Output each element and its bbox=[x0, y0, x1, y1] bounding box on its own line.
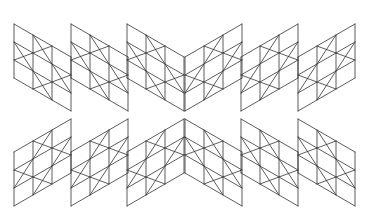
right-lower-panel-0-grid-slant bbox=[298, 155, 355, 188]
right-lower-panel-1-cell-diagonal bbox=[279, 159, 298, 188]
right-lower-panel-0-cell-diagonal bbox=[317, 130, 336, 159]
right-lower-panel-0-grid-slant bbox=[298, 173, 355, 206]
left-upper-panel-2-grid-slant bbox=[127, 60, 184, 93]
right-lower-panel-0-grid-slant bbox=[298, 119, 355, 152]
right-lower-panel-2-grid-slant bbox=[185, 119, 242, 152]
left-lower-panel-0-cell-diagonal bbox=[33, 130, 52, 159]
right-lower-panel-2-cell-diagonal bbox=[185, 137, 204, 166]
left-lower-panel-1-grid-slant bbox=[71, 119, 128, 152]
left-lower-panel-0-grid-slant bbox=[14, 155, 71, 188]
right-upper-panel-0-cell-diagonal bbox=[298, 75, 317, 82]
right-upper-panel-0-cell-diagonal bbox=[336, 53, 355, 60]
right-upper-panel-0-grid-slant bbox=[298, 42, 355, 75]
right-lower-panel-2-cell-diagonal bbox=[204, 166, 223, 195]
right-upper-panel-0-grid-slant bbox=[298, 78, 355, 111]
right-upper-panel-1-grid-slant bbox=[241, 78, 298, 111]
left-upper-panel-2-cell-diagonal bbox=[127, 53, 146, 60]
right-upper-panel-0-cell-diagonal bbox=[317, 82, 336, 89]
right-upper-panel-0-grid-slant bbox=[298, 24, 355, 57]
left-lower-panel-0-cell-diagonal bbox=[52, 137, 71, 166]
right-lower-panel-0-cell-diagonal bbox=[298, 137, 317, 166]
left-lower-panel-1-grid-slant bbox=[71, 155, 128, 188]
right-lower-panel-1-cell-diagonal bbox=[260, 166, 279, 195]
right-upper-panel-1-grid-slant bbox=[241, 42, 298, 75]
right-lower-panel-0-cell-diagonal bbox=[317, 166, 336, 195]
left-lower-panel-2-cell-diagonal bbox=[127, 159, 146, 188]
right-upper-panel-1-cell-diagonal bbox=[241, 75, 260, 82]
right-upper-panel-2-grid-slant bbox=[185, 60, 242, 93]
left-upper-panel-1-cell-diagonal bbox=[109, 75, 128, 82]
right-upper-panel-1-cell-diagonal bbox=[260, 82, 279, 89]
left-upper-panel-0-grid-slant bbox=[14, 42, 71, 75]
right-upper-panel-2-cell-diagonal bbox=[185, 75, 204, 82]
left-lower-panel-2-grid-slant bbox=[127, 137, 184, 170]
left-upper-panel-1-grid-slant bbox=[71, 42, 128, 75]
left-lower-panel-1-grid-slant bbox=[71, 137, 128, 170]
left-upper-panel-2-cell-diagonal bbox=[146, 82, 165, 89]
left-lower-panel-1-cell-diagonal bbox=[71, 159, 90, 188]
left-lower-panel-0-grid-slant bbox=[14, 119, 71, 152]
right-lower-panel-2-grid-slant bbox=[185, 155, 242, 188]
chevron-tessellation-figure bbox=[0, 0, 365, 219]
left-upper-panel-2-grid-slant bbox=[127, 78, 184, 111]
left-lower-panel-1-grid-slant bbox=[71, 173, 128, 206]
left-lower-panel-2-cell-diagonal bbox=[146, 130, 165, 159]
left-upper-panel-0-grid-slant bbox=[14, 24, 71, 57]
left-upper-panel-0-cell-diagonal bbox=[14, 53, 33, 60]
right-upper-panel-1-cell-diagonal bbox=[260, 46, 279, 53]
right-lower-panel-1-grid-slant bbox=[241, 137, 298, 170]
left-lower-panel-0-grid-slant bbox=[14, 137, 71, 170]
right-lower-panel-1-cell-diagonal bbox=[260, 130, 279, 159]
left-lower-panel-1-cell-diagonal bbox=[90, 130, 109, 159]
right-upper-panel-2-grid-slant bbox=[185, 78, 242, 111]
left-upper-panel-1-grid-slant bbox=[71, 60, 128, 93]
right-lower-panel-0-cell-diagonal bbox=[336, 159, 355, 188]
tessellation-svg bbox=[0, 0, 365, 219]
left-lower-panel-2-cell-diagonal bbox=[165, 137, 184, 166]
left-upper-panel-0-grid-slant bbox=[14, 60, 71, 93]
left-lower-panel-0-grid-slant bbox=[14, 173, 71, 206]
left-upper-panel-0-grid-slant bbox=[14, 78, 71, 111]
right-lower-panel-2-grid-slant bbox=[185, 137, 242, 170]
left-lower-panel-2-grid-slant bbox=[127, 155, 184, 188]
left-upper-panel-2-grid-slant bbox=[127, 42, 184, 75]
left-upper-panel-1-grid-slant bbox=[71, 24, 128, 57]
right-lower-panel-0-grid-slant bbox=[298, 137, 355, 170]
right-lower-panel-1-cell-diagonal bbox=[241, 137, 260, 166]
left-upper-panel-0-cell-diagonal bbox=[33, 82, 52, 89]
right-upper-panel-0-cell-diagonal bbox=[317, 46, 336, 53]
right-upper-panel-1-grid-slant bbox=[241, 24, 298, 57]
right-upper-panel-2-cell-diagonal bbox=[223, 53, 242, 60]
right-lower-panel-2-cell-diagonal bbox=[223, 159, 242, 188]
left-lower-panel-2-cell-diagonal bbox=[146, 166, 165, 195]
right-upper-panel-1-grid-slant bbox=[241, 60, 298, 93]
right-lower-panel-1-grid-slant bbox=[241, 119, 298, 152]
left-upper-panel-1-cell-diagonal bbox=[90, 46, 109, 53]
left-upper-panel-2-cell-diagonal bbox=[165, 75, 184, 82]
left-upper-panel-1-grid-slant bbox=[71, 78, 128, 111]
left-upper-panel-1-cell-diagonal bbox=[71, 53, 90, 60]
right-upper-panel-2-cell-diagonal bbox=[204, 46, 223, 53]
left-lower-panel-1-cell-diagonal bbox=[109, 137, 128, 166]
right-lower-panel-2-cell-diagonal bbox=[204, 130, 223, 159]
left-upper-panel-2-grid-slant bbox=[127, 24, 184, 57]
right-lower-panel-2-grid-slant bbox=[185, 173, 242, 206]
right-lower-panel-1-grid-slant bbox=[241, 155, 298, 188]
right-upper-panel-0-grid-slant bbox=[298, 60, 355, 93]
right-upper-panel-2-grid-slant bbox=[185, 42, 242, 75]
left-lower-panel-1-cell-diagonal bbox=[90, 166, 109, 195]
right-lower-panel-1-grid-slant bbox=[241, 173, 298, 206]
right-upper-panel-2-grid-slant bbox=[185, 24, 242, 57]
left-upper-panel-0-cell-diagonal bbox=[33, 46, 52, 53]
right-upper-panel-1-cell-diagonal bbox=[279, 53, 298, 60]
left-upper-panel-1-cell-diagonal bbox=[90, 82, 109, 89]
left-lower-panel-2-grid-slant bbox=[127, 119, 184, 152]
left-lower-panel-0-cell-diagonal bbox=[14, 159, 33, 188]
left-upper-panel-2-cell-diagonal bbox=[146, 46, 165, 53]
left-upper-panel-0-cell-diagonal bbox=[52, 75, 71, 82]
left-lower-panel-0-cell-diagonal bbox=[33, 166, 52, 195]
left-lower-panel-2-grid-slant bbox=[127, 173, 184, 206]
right-upper-panel-2-cell-diagonal bbox=[204, 82, 223, 89]
